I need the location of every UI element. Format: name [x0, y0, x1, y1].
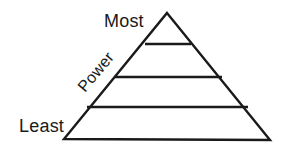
label-most: Most	[104, 12, 144, 30]
pyramid-diagram: Most Least Power	[0, 0, 286, 153]
label-least: Least	[19, 117, 64, 135]
